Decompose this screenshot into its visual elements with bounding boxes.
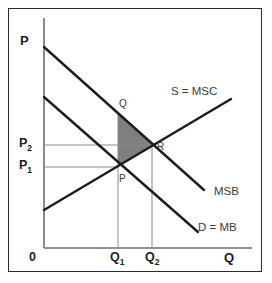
price-tick-p2-sub: 2 [27, 143, 32, 153]
point-p-label: P [119, 174, 126, 184]
quantity-tick-q2-sub: 2 [155, 257, 160, 267]
quantity-tick-q1-base: Q [110, 250, 120, 264]
price-tick-p1-sub: 1 [27, 165, 32, 175]
quantity-tick-q2-base: Q [145, 250, 155, 264]
msb-curve-label: MSB [214, 186, 239, 198]
quantity-tick-q1-sub: 1 [120, 257, 125, 267]
supply-curve-label: S = MSC [171, 86, 217, 98]
diagram-page: P Q 0 P2 P1 Q1 Q2 S = MSC MSB D = MB Q R… [0, 0, 272, 283]
point-r-label: R [157, 142, 164, 152]
supply-curve [44, 99, 231, 210]
x-axis-label: Q [224, 251, 234, 264]
quantity-tick-q1: Q1 [110, 251, 124, 266]
price-tick-p1: P1 [19, 159, 32, 174]
origin-label: 0 [29, 251, 36, 264]
price-tick-p2: P2 [19, 137, 32, 152]
diagram-canvas [0, 0, 272, 283]
y-axis-label: P [20, 34, 29, 47]
point-q-label: Q [119, 99, 127, 109]
demand-curve-label: D = MB [198, 222, 237, 234]
quantity-tick-q2: Q2 [145, 251, 159, 266]
